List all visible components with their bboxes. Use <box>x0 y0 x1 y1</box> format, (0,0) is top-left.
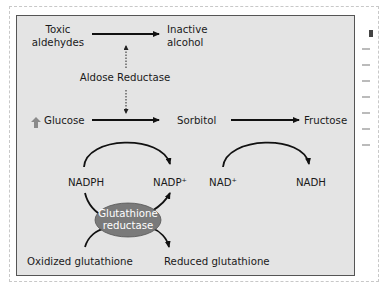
enzyme-label-line2: reductase <box>103 220 154 231</box>
nadh-label: NADH <box>296 177 326 188</box>
aldose-reductase-label: Aldose Reductase <box>80 72 171 83</box>
nadp-plus-label: NADP⁺ <box>153 177 187 188</box>
toxic-aldehydes-label-line1: Toxic <box>45 24 71 35</box>
sorbitol-label: Sorbitol <box>177 115 216 126</box>
arc-enzyme-to-reduced <box>152 228 169 247</box>
fructose-label: Fructose <box>304 115 347 126</box>
enzyme-label-line1: Glutathione <box>98 208 158 219</box>
toxic-aldehydes-label-line2: aldehydes <box>32 37 84 48</box>
glucose-label: Glucose <box>44 115 85 126</box>
curved-arrow-nad-to-nadh <box>223 143 309 167</box>
oxidized-glutathione-label: Oxidized glutathione <box>27 256 133 267</box>
nad-plus-label: NAD⁺ <box>209 177 237 188</box>
increase-arrow-icon <box>31 117 41 128</box>
curved-arrow-nadph-to-nadp <box>84 143 170 167</box>
inactive-alcohol-label-line1: Inactive <box>167 24 207 35</box>
inactive-alcohol-label-line2: alcohol <box>167 37 203 48</box>
reduced-glutathione-label: Reduced glutathione <box>164 256 270 267</box>
nadph-label: NADPH <box>68 177 104 188</box>
